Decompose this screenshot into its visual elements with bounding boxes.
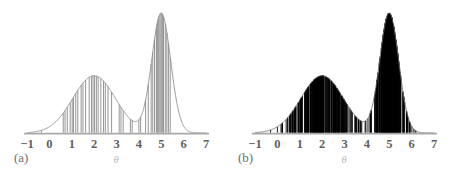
- tick-label-7: 7: [203, 137, 209, 151]
- tick-label-1: 1: [297, 137, 303, 151]
- panel-a: −101234567 θ (a): [0, 0, 228, 179]
- panel-a-tick-labels: −101234567: [20, 137, 209, 151]
- panel-a-plot: −101234567 θ: [0, 0, 228, 179]
- tick-label-6: 6: [409, 137, 415, 151]
- panel-b: −101234567 θ (b): [228, 0, 456, 179]
- figure-bimodal-density-rug: −101234567 θ (a) −101234567 θ (b): [0, 0, 456, 179]
- panel-b-caption: (b): [238, 151, 253, 164]
- tick-label-4: 4: [136, 137, 143, 151]
- panel-b-axis-title: θ: [341, 154, 346, 165]
- tick-label-0: 0: [274, 137, 280, 151]
- tick-label-6: 6: [181, 137, 187, 151]
- panel-a-caption: (a): [14, 151, 28, 164]
- tick-label-2: 2: [91, 137, 97, 151]
- panel-a-rug-lines: [42, 13, 171, 133]
- tick-label-5: 5: [158, 137, 164, 151]
- panel-a-axis-title: θ: [113, 154, 118, 165]
- tick-label-0: 0: [46, 137, 52, 151]
- tick-label-3: 3: [113, 137, 119, 151]
- tick-label-5: 5: [386, 137, 392, 151]
- tick-label-4: 4: [364, 137, 371, 151]
- tick-label-7: 7: [431, 137, 437, 151]
- tick-label-minus1: −1: [248, 137, 261, 151]
- tick-label-2: 2: [319, 137, 325, 151]
- panel-a-density-curve: [27, 13, 206, 133]
- tick-label-1: 1: [69, 137, 75, 151]
- tick-label-3: 3: [341, 137, 347, 151]
- tick-label-minus1: −1: [20, 137, 33, 151]
- panel-b-tick-labels: −101234567: [248, 137, 437, 151]
- panel-b-plot: −101234567 θ: [228, 0, 456, 179]
